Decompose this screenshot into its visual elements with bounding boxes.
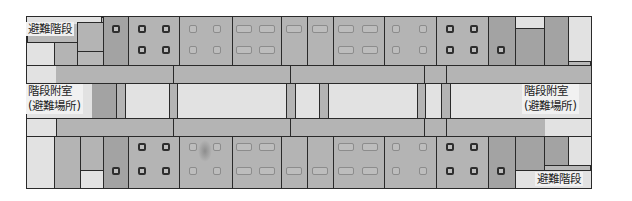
corridor-upper-left-cell — [26, 65, 57, 84]
window-icon — [392, 167, 400, 175]
window-slot-icon — [338, 25, 354, 33]
window-icon — [189, 143, 197, 151]
window-icon — [470, 46, 478, 54]
stair-top-left-cell — [26, 42, 55, 66]
hall-cell-2 — [177, 83, 287, 119]
room-bottom-5 — [281, 136, 308, 189]
room-top-9 — [436, 16, 489, 66]
window-icon — [419, 167, 427, 175]
window-icon — [446, 46, 454, 54]
window-icon — [213, 25, 221, 33]
label-evacuation-stair-top: 避難階段 — [26, 22, 74, 36]
window-icon — [419, 143, 427, 151]
window-icon — [189, 46, 197, 54]
window-icon — [470, 143, 478, 151]
stair-right-top-flight-2 — [544, 16, 569, 66]
corridor-lower-1 — [56, 118, 174, 137]
room-top-1 — [103, 16, 129, 66]
label-line-2: (避難場所) — [28, 99, 81, 114]
window-icon — [189, 25, 197, 33]
window-icon — [392, 143, 400, 151]
window-slot-icon — [338, 143, 354, 151]
room-top-4 — [232, 16, 282, 66]
window-slot-icon — [362, 167, 378, 175]
window-slot-icon — [362, 143, 378, 151]
corridor-lower-2 — [173, 118, 291, 137]
corridor-lower-right-cell — [545, 118, 592, 137]
window-icon — [138, 46, 146, 54]
smudge-mark — [198, 140, 212, 162]
window-icon — [497, 167, 505, 175]
label-text: 避難階段 — [28, 22, 72, 36]
window-slot-icon — [312, 25, 328, 33]
room-top-3 — [179, 16, 233, 66]
window-slot-icon — [338, 167, 354, 175]
window-icon — [138, 143, 146, 151]
room-top-8 — [384, 16, 437, 66]
window-slot-icon — [286, 167, 302, 175]
window-icon — [162, 167, 170, 175]
corridor-upper-2 — [173, 65, 291, 84]
window-icon — [162, 143, 170, 151]
room-top-10 — [488, 16, 516, 66]
window-icon — [112, 25, 120, 33]
window-icon — [213, 143, 221, 151]
room-bottom-9 — [436, 136, 489, 189]
stair-bottom-left-edge — [26, 136, 55, 189]
label-line-2: (避難場所) — [524, 99, 577, 114]
hall-cell-1 — [125, 83, 170, 119]
stair-right-bottom-edge — [568, 136, 592, 166]
window-icon — [470, 25, 478, 33]
window-icon — [392, 46, 400, 54]
room-bottom-10 — [488, 136, 516, 189]
window-slot-icon — [236, 143, 252, 151]
label-stair-annex-right: 階段附室 (避難場所) — [522, 84, 579, 114]
window-icon — [497, 46, 505, 54]
hall-cell-3 — [295, 83, 320, 119]
corridor-lower-4 — [424, 118, 447, 137]
corridor-lower-5 — [446, 118, 546, 137]
window-icon — [138, 167, 146, 175]
window-icon — [419, 25, 427, 33]
window-slot-icon — [259, 46, 275, 54]
room-bottom-2 — [128, 136, 180, 189]
window-icon — [446, 25, 454, 33]
stair-right-bottom-flight — [515, 136, 545, 171]
stair-right-top-flight — [515, 28, 545, 66]
corridor-upper-5 — [446, 65, 592, 84]
window-slot-icon — [259, 25, 275, 33]
window-slot-icon — [236, 167, 252, 175]
label-stair-annex-left: 階段附室 (避難場所) — [26, 84, 83, 114]
room-top-6 — [307, 16, 334, 66]
window-slot-icon — [236, 46, 252, 54]
corridor-upper-4 — [424, 65, 447, 84]
floor-plan: 避難階段 階段附室 (避難場所) 階段附室 (避難場所) 避難階段 — [0, 0, 632, 201]
label-line-1: 階段附室 — [524, 84, 577, 99]
window-icon — [392, 25, 400, 33]
room-top-2 — [128, 16, 180, 66]
hall-cell-4 — [328, 83, 418, 119]
stair-bottom-flight — [54, 136, 81, 189]
window-slot-icon — [286, 25, 302, 33]
window-slot-icon — [236, 25, 252, 33]
window-icon — [189, 167, 197, 175]
stair-bottom-landing-left — [80, 170, 104, 189]
window-slot-icon — [362, 46, 378, 54]
window-icon — [446, 143, 454, 151]
corridor-upper-3 — [290, 65, 425, 84]
stair-right-bottom-flight-2 — [544, 136, 569, 166]
window-icon — [138, 25, 146, 33]
room-bottom-6 — [307, 136, 334, 189]
label-text: 避難階段 — [537, 172, 581, 186]
stair-top-step — [77, 22, 104, 52]
room-top-7 — [333, 16, 385, 66]
label-evacuation-stair-bottom: 避難階段 — [535, 172, 583, 186]
stair-bottom-flight-2 — [80, 136, 104, 171]
corridor-lower-left-cell — [26, 118, 57, 137]
window-slot-icon — [338, 46, 354, 54]
window-icon — [213, 46, 221, 54]
window-icon — [112, 167, 120, 175]
window-slot-icon — [312, 167, 328, 175]
window-icon — [470, 167, 478, 175]
hall-cell-5 — [425, 83, 442, 119]
